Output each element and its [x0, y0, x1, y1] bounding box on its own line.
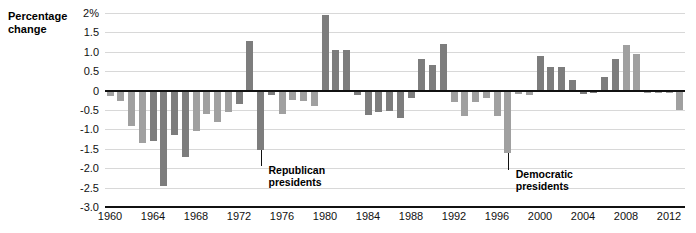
annotation-democratic-leader-line — [508, 153, 509, 170]
gridline — [105, 13, 685, 14]
y-axis-tick-label: -1.0 — [59, 123, 99, 135]
annotation-democratic-presidents: Democratic presidents — [516, 168, 573, 192]
y-axis-tick-label: -3.0 — [59, 201, 99, 213]
y-axis-tick-label: 1.5 — [59, 26, 99, 38]
bar — [365, 91, 372, 115]
x-axis-tick-label: 2012 — [657, 210, 681, 222]
gridline — [105, 168, 685, 169]
bar — [182, 91, 189, 157]
bar — [203, 91, 210, 114]
y-axis-tick-label: 1.0 — [59, 46, 99, 58]
bar — [633, 54, 640, 91]
bar — [537, 56, 544, 91]
bar — [193, 91, 200, 132]
bar — [461, 91, 468, 116]
x-axis-tick-label: 1976 — [270, 210, 294, 222]
x-axis-tick-label: 2008 — [614, 210, 638, 222]
bar — [150, 91, 157, 141]
bar — [397, 91, 404, 118]
bar — [375, 91, 382, 112]
bar — [332, 50, 339, 91]
bar — [117, 91, 124, 101]
gridline — [105, 188, 685, 189]
annotation-republican-leader-line — [261, 150, 262, 167]
x-axis-tick-label: 1964 — [141, 210, 165, 222]
x-axis-tick-label: 1992 — [442, 210, 466, 222]
bar — [547, 67, 554, 90]
y-axis-tick-label: 0 — [59, 85, 99, 97]
zero-axis-line — [105, 90, 685, 92]
annotation-republican-line2: presidents — [269, 176, 322, 188]
y-axis-tick-label: -2.5 — [59, 182, 99, 194]
bar — [451, 91, 458, 103]
bar — [289, 91, 296, 101]
bar — [612, 59, 619, 91]
bar — [408, 91, 415, 99]
bar — [676, 91, 683, 110]
x-axis-tick-label: 1980 — [313, 210, 337, 222]
plot-area: 2%1.51.00.50-0.5-1.0-1.5-2.0-2.5-3.0 196… — [105, 13, 685, 207]
y-axis-tick-label: 2% — [59, 7, 99, 19]
gridline — [105, 32, 685, 33]
bar — [311, 91, 318, 107]
annotation-republican-line1: Republican — [269, 164, 326, 176]
y-axis-tick-label: 0.5 — [59, 65, 99, 77]
bar — [504, 91, 511, 153]
bar — [128, 91, 135, 126]
bar — [429, 65, 436, 90]
bar — [214, 91, 221, 122]
x-axis-tick-label: 1984 — [356, 210, 380, 222]
gridline — [105, 149, 685, 150]
annotation-republican-presidents: Republican presidents — [269, 164, 326, 188]
y-axis-tick-label: -2.0 — [59, 162, 99, 174]
x-axis-tick-label: 1972 — [227, 210, 251, 222]
bar — [322, 15, 329, 91]
x-axis-tick-label: 1960 — [98, 210, 122, 222]
bar — [236, 91, 243, 105]
bar — [386, 91, 393, 111]
y-axis-tick-label: -0.5 — [59, 104, 99, 116]
bar — [139, 91, 146, 143]
bar — [257, 91, 264, 150]
bar — [623, 45, 630, 91]
bar — [171, 91, 178, 136]
y-axis-tick-label: -1.5 — [59, 143, 99, 155]
bar — [343, 50, 350, 91]
chart-figure: Percentage change 2%1.51.00.50-0.5-1.0-1… — [0, 0, 696, 233]
bar — [160, 91, 167, 186]
bar — [418, 59, 425, 91]
x-axis-tick-label: 2004 — [571, 210, 595, 222]
bar — [601, 77, 608, 91]
bar — [472, 91, 479, 103]
bar — [558, 67, 565, 90]
bar — [440, 44, 447, 91]
bar — [279, 91, 286, 114]
bar — [483, 91, 490, 98]
x-axis-tick-label: 2000 — [528, 210, 552, 222]
bar — [300, 91, 307, 102]
annotation-democratic-line2: presidents — [516, 180, 569, 192]
annotation-democratic-line1: Democratic — [516, 168, 573, 180]
gridline — [105, 71, 685, 72]
gridline — [105, 52, 685, 53]
x-axis-tick-label: 1968 — [184, 210, 208, 222]
x-axis-tick-label: 1988 — [399, 210, 423, 222]
y-axis-title-line2: change — [8, 23, 47, 35]
bar — [225, 91, 232, 112]
x-axis-line — [105, 206, 685, 208]
bar — [246, 41, 253, 91]
bar — [494, 91, 501, 116]
x-axis-tick-label: 1996 — [485, 210, 509, 222]
